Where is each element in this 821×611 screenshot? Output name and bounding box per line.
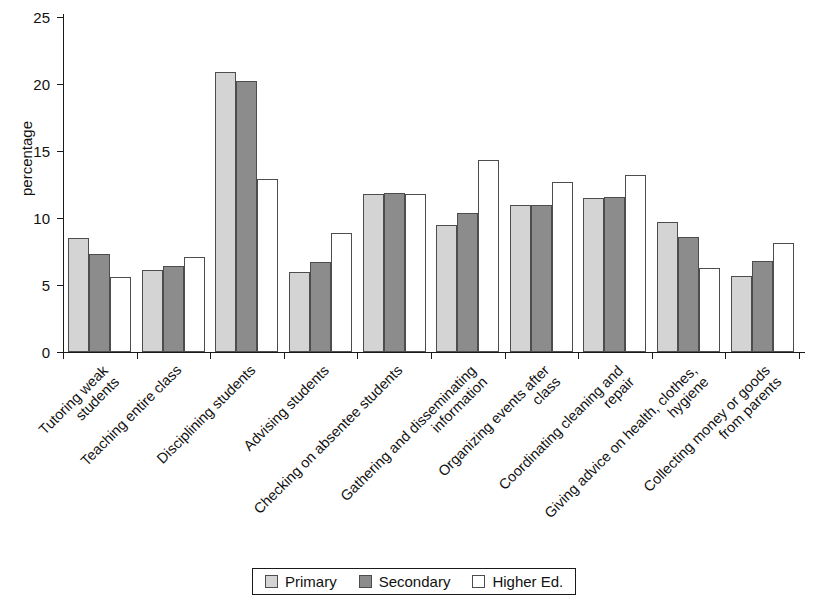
bar-primary [731,276,752,352]
y-tick-label-10: 10 [33,210,50,227]
bar-group [431,17,505,352]
bar-group [63,17,137,352]
legend-item-secondary: Secondary [359,573,451,590]
bar-secondary [604,197,625,352]
bar-secondary [678,237,699,352]
bar-secondary [384,193,405,352]
bar-primary [68,238,89,352]
bar-secondary [236,81,257,352]
bar-group [357,17,431,352]
bar-primary [142,270,163,352]
plot-area [63,17,799,352]
bar-higher [478,160,499,352]
bar-higher [110,277,131,352]
bar-higher [331,233,352,352]
legend-swatch-higher-ed [472,575,485,588]
bar-group [505,17,579,352]
bar-higher [552,182,573,352]
bar-primary [289,272,310,352]
y-tick-label-25: 25 [33,9,50,26]
legend-label-secondary: Secondary [379,573,451,590]
bar-group [652,17,726,352]
bar-higher [625,175,646,352]
bar-secondary [457,213,478,352]
chart-legend: Primary Secondary Higher Ed. [252,568,576,595]
bar-secondary [163,266,184,352]
bar-chart: percentage 0510152025 Tutoring weakstude… [0,0,821,611]
bar-higher [257,179,278,352]
bar-primary [363,194,384,352]
bar-higher [773,243,794,352]
bar-group [284,17,358,352]
legend-swatch-primary [265,575,278,588]
y-tick-label-15: 15 [33,143,50,160]
bar-primary [657,222,678,352]
bar-higher [699,268,720,352]
bar-group [210,17,284,352]
category-label: Checking on absentee students [251,362,406,517]
x-axis-category-labels: Tutoring weakstudentsTeaching entire cla… [0,352,821,552]
bar-group [137,17,211,352]
legend-swatch-secondary [359,575,372,588]
bar-primary [583,198,604,352]
legend-item-primary: Primary [265,573,337,590]
bar-higher [405,194,426,352]
bar-secondary [531,205,552,352]
y-tick-label-5: 5 [42,277,50,294]
bar-secondary [752,261,773,352]
bar-group [578,17,652,352]
bar-primary [510,205,531,352]
legend-label-primary: Primary [285,573,337,590]
bar-group [725,17,799,352]
legend-label-higher-ed: Higher Ed. [492,573,563,590]
category-label: Collecting money or goodsfrom parents [641,362,785,506]
bar-primary [215,72,236,352]
bar-higher [184,257,205,352]
y-tick-label-20: 20 [33,76,50,93]
bar-primary [436,225,457,352]
bar-secondary [310,262,331,352]
legend-item-higher-ed: Higher Ed. [472,573,563,590]
bar-secondary [89,254,110,352]
